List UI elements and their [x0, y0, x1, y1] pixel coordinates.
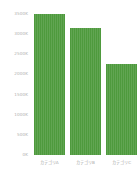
bar-category-b[interactable]	[70, 28, 101, 155]
y-axis-tick-label: 500K	[17, 133, 28, 137]
y-axis-tick-label: 1000K	[14, 113, 28, 117]
y-axis-tick-label: 2000K	[14, 72, 28, 76]
bar-slot	[34, 14, 65, 155]
x-axis: カテゴリA カテゴリB カテゴリC	[31, 157, 140, 171]
bar-slot	[106, 14, 137, 155]
bar-group	[31, 14, 140, 155]
y-axis-tick-label: 2500K	[14, 52, 28, 56]
y-axis-tick-label: 3000K	[14, 32, 28, 36]
x-axis-tick-label-a: カテゴリA	[40, 161, 59, 165]
y-axis-tick-label: 3500K	[14, 12, 28, 16]
plot-area	[31, 14, 140, 155]
y-axis-tick-label: 1500K	[14, 92, 28, 96]
x-axis-tick-label-c: カテゴリC	[112, 161, 131, 165]
bar-category-c[interactable]	[106, 64, 137, 155]
bar-slot	[70, 14, 101, 155]
bar-chart: 3500K 3000K 2500K 2000K 1500K 1000K 500K…	[0, 0, 140, 180]
bar-category-a[interactable]	[34, 14, 65, 155]
y-axis-tick-label: 0K	[22, 153, 28, 157]
x-axis-tick-label-b: カテゴリB	[76, 161, 95, 165]
y-axis: 3500K 3000K 2500K 2000K 1500K 1000K 500K…	[0, 14, 31, 155]
